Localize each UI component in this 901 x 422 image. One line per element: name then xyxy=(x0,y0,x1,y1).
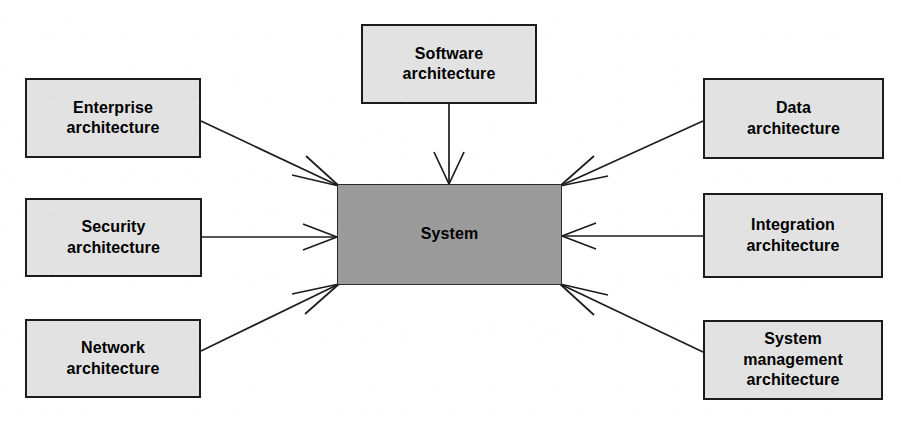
node-enterprise-architecture[interactable]: Enterprise architecture xyxy=(25,78,201,158)
node-data-architecture-label: Data architecture xyxy=(743,98,844,139)
node-system[interactable]: System xyxy=(337,184,562,285)
node-system-label: System xyxy=(417,224,483,244)
node-network-architecture-label: Network architecture xyxy=(63,338,164,379)
node-software-architecture[interactable]: Software architecture xyxy=(361,24,537,104)
edge-data-to-system xyxy=(560,121,703,186)
edge-system-management-to-system xyxy=(560,284,703,352)
edge-security-to-system xyxy=(202,224,337,250)
edge-enterprise-to-system xyxy=(201,121,339,186)
node-software-architecture-label: Software architecture xyxy=(399,44,500,85)
node-security-architecture-label: Security architecture xyxy=(63,217,164,258)
node-data-architecture[interactable]: Data architecture xyxy=(703,78,884,159)
node-system-management-architecture-label: System management architecture xyxy=(739,329,847,390)
node-enterprise-architecture-label: Enterprise architecture xyxy=(63,98,164,139)
edge-integration-to-system xyxy=(562,223,703,249)
architecture-diagram: System Enterprise architecture Security … xyxy=(0,0,901,422)
node-network-architecture[interactable]: Network architecture xyxy=(25,319,201,398)
node-system-management-architecture[interactable]: System management architecture xyxy=(703,320,883,400)
edge-network-to-system xyxy=(201,284,339,351)
node-integration-architecture-label: Integration architecture xyxy=(743,215,844,256)
node-integration-architecture[interactable]: Integration architecture xyxy=(703,193,883,278)
node-security-architecture[interactable]: Security architecture xyxy=(25,198,202,277)
edge-software-to-system xyxy=(434,104,464,184)
